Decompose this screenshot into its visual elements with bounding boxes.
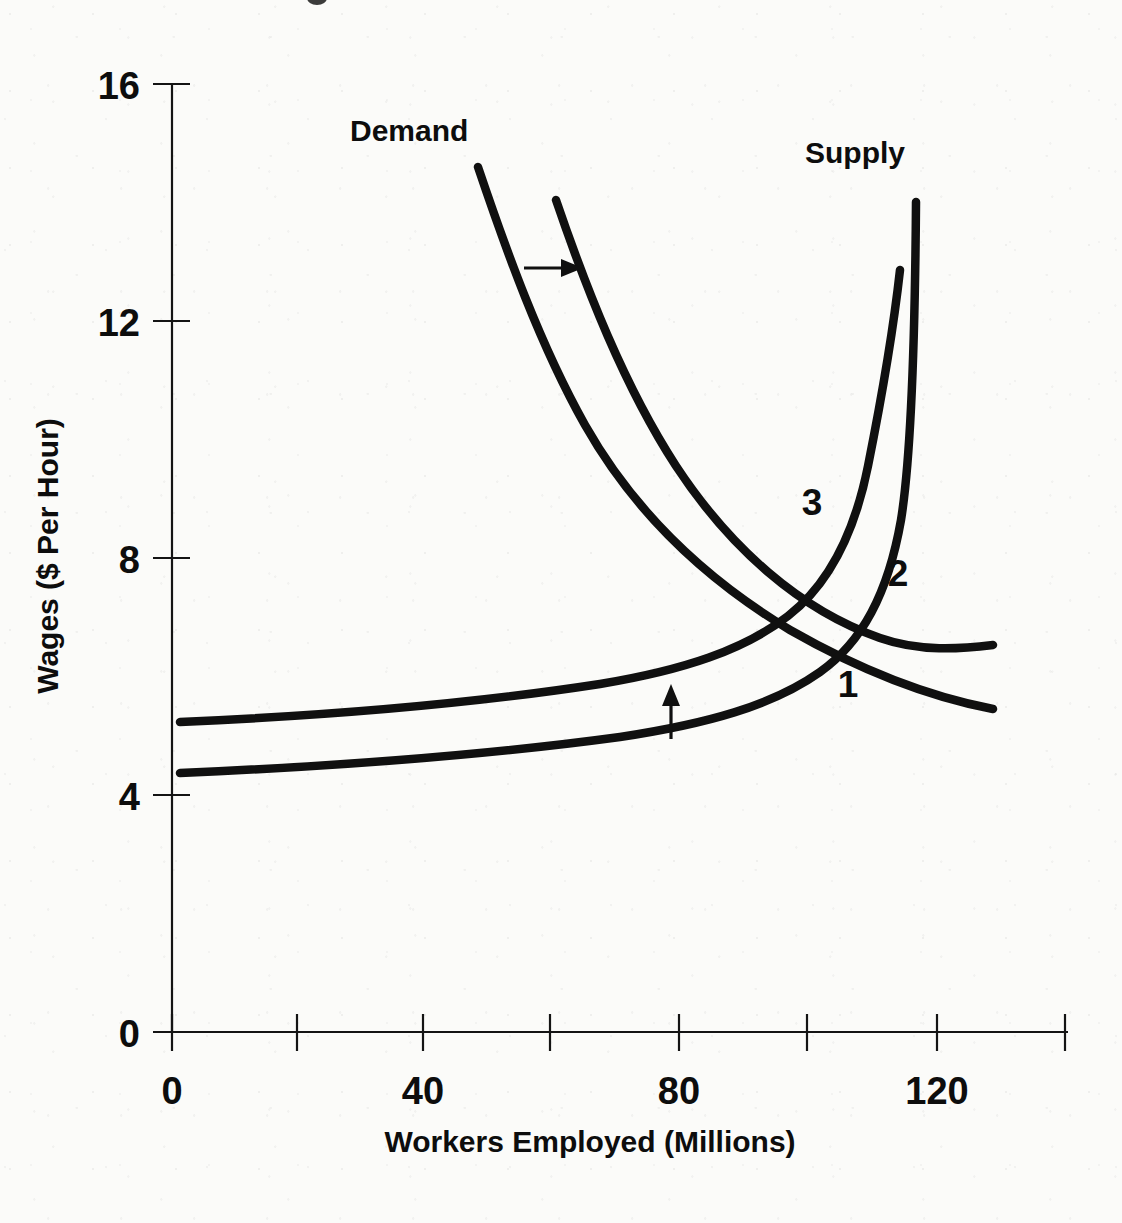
- y-tick-labels: 16 12 8 4 0: [98, 65, 140, 1055]
- x-tick-label-120: 120: [905, 1070, 968, 1112]
- x-axis-title: Workers Employed (Millions): [384, 1125, 795, 1158]
- x-tick-label-80: 80: [658, 1070, 700, 1112]
- y-tick-label-8: 8: [119, 539, 140, 581]
- equilibrium-label-3: 3: [802, 482, 823, 523]
- y-axis-title: Wages ($ Per Hour): [31, 418, 64, 694]
- equilibrium-label-2: 2: [888, 553, 909, 594]
- x-tick-label-0: 0: [161, 1070, 182, 1112]
- x-tick-labels: 0 40 80 120: [161, 1070, 968, 1112]
- demand-curve-2: [556, 200, 993, 648]
- supply-curve-label: Supply: [805, 136, 905, 169]
- y-tick-label-12: 12: [98, 302, 140, 344]
- supply-shift-arrow-head: [662, 684, 680, 706]
- y-tick-label-4: 4: [119, 776, 140, 818]
- equilibrium-label-1: 1: [838, 664, 859, 705]
- y-tick-label-0: 0: [119, 1013, 140, 1055]
- demand-curve-label: Demand: [350, 114, 468, 147]
- x-tick-label-40: 40: [402, 1070, 444, 1112]
- chart-page: 16 12 8 4 0 0 40 80 120 Wages ($ Per Hou…: [0, 0, 1122, 1223]
- supply-demand-chart: 16 12 8 4 0 0 40 80 120 Wages ($ Per Hou…: [0, 0, 1122, 1223]
- y-axis: [153, 84, 190, 1032]
- x-axis: [172, 1014, 1068, 1051]
- y-tick-label-16: 16: [98, 65, 140, 107]
